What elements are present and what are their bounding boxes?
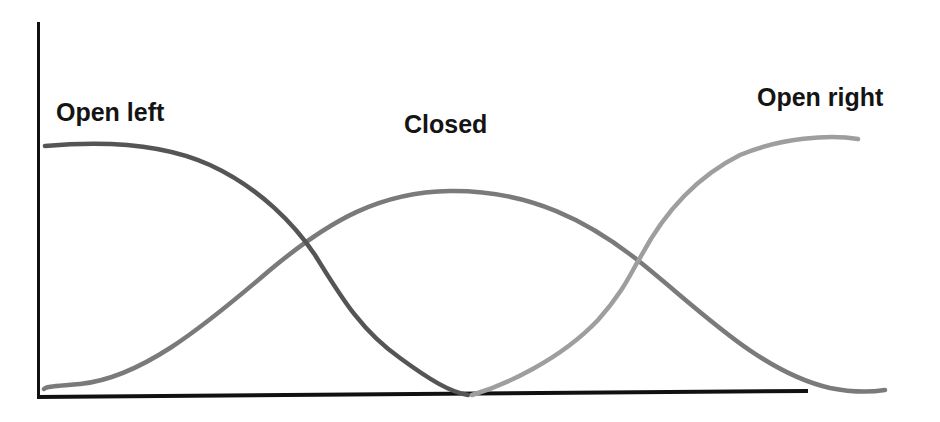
label-open-right: Open right [757, 85, 883, 110]
x-axis [37, 391, 808, 397]
state-diagram [0, 0, 940, 422]
open-right-curve [472, 137, 858, 395]
open-left-curve [45, 144, 468, 395]
label-closed: Closed [404, 112, 487, 137]
label-open-left: Open left [56, 100, 164, 125]
closed-curve [44, 191, 885, 392]
